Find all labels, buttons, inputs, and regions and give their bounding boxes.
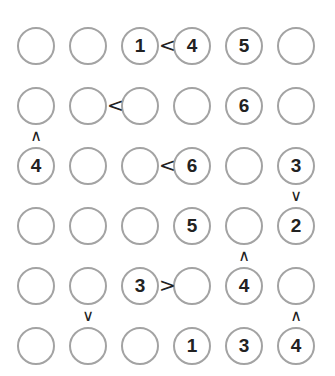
- grid-cell-r5-c3[interactable]: 3: [121, 267, 159, 305]
- grid-cell-r6-c1[interactable]: [17, 327, 55, 365]
- grid-cell-r1-c1[interactable]: [17, 27, 55, 65]
- caret-up-sign: ∧: [236, 249, 252, 263]
- grid-cell-r3-c5[interactable]: [225, 147, 263, 185]
- grid-cell-r6-c4[interactable]: 1: [173, 327, 211, 365]
- grid-cell-r1-c3[interactable]: 1: [121, 27, 159, 65]
- grid-cell-r1-c5[interactable]: 5: [225, 27, 263, 65]
- caret-down-sign: ∨: [288, 189, 304, 203]
- greater-than-sign: >: [159, 275, 173, 295]
- grid-cell-r3-c4[interactable]: 6: [173, 147, 211, 185]
- grid-cell-r6-c6[interactable]: 4: [277, 327, 315, 365]
- grid-cell-r5-c2[interactable]: [69, 267, 107, 305]
- grid-cell-r2-c5[interactable]: 6: [225, 87, 263, 125]
- grid-cell-r2-c4[interactable]: [173, 87, 211, 125]
- futoshiki-board: 14564635234134<<<>∧∨∧∨∧: [0, 0, 335, 376]
- grid-cell-r4-c5[interactable]: [225, 207, 263, 245]
- grid-cell-r2-c6[interactable]: [277, 87, 315, 125]
- grid-cell-r5-c6[interactable]: [277, 267, 315, 305]
- grid-cell-r3-c1[interactable]: 4: [17, 147, 55, 185]
- grid-cell-r6-c2[interactable]: [69, 327, 107, 365]
- grid-cell-r2-c2[interactable]: [69, 87, 107, 125]
- less-than-sign: <: [107, 95, 121, 115]
- grid-cell-r3-c3[interactable]: [121, 147, 159, 185]
- less-than-sign: <: [159, 155, 173, 175]
- grid-cell-r4-c1[interactable]: [17, 207, 55, 245]
- grid-cell-r5-c4[interactable]: [173, 267, 211, 305]
- grid-cell-r6-c5[interactable]: 3: [225, 327, 263, 365]
- grid-cell-r4-c4[interactable]: 5: [173, 207, 211, 245]
- caret-up-sign: ∧: [288, 309, 304, 323]
- grid-cell-r2-c1[interactable]: [17, 87, 55, 125]
- grid-cell-r5-c5[interactable]: 4: [225, 267, 263, 305]
- grid-cell-r4-c3[interactable]: [121, 207, 159, 245]
- grid-cell-r5-c1[interactable]: [17, 267, 55, 305]
- caret-down-sign: ∨: [80, 309, 96, 323]
- caret-up-sign: ∧: [28, 129, 44, 143]
- less-than-sign: <: [159, 35, 173, 55]
- grid-cell-r2-c3[interactable]: [121, 87, 159, 125]
- grid-cell-r3-c6[interactable]: 3: [277, 147, 315, 185]
- grid-cell-r1-c2[interactable]: [69, 27, 107, 65]
- grid-cell-r4-c6[interactable]: 2: [277, 207, 315, 245]
- grid-cell-r3-c2[interactable]: [69, 147, 107, 185]
- grid-cell-r6-c3[interactable]: [121, 327, 159, 365]
- grid-cell-r1-c6[interactable]: [277, 27, 315, 65]
- grid-cell-r4-c2[interactable]: [69, 207, 107, 245]
- grid-cell-r1-c4[interactable]: 4: [173, 27, 211, 65]
